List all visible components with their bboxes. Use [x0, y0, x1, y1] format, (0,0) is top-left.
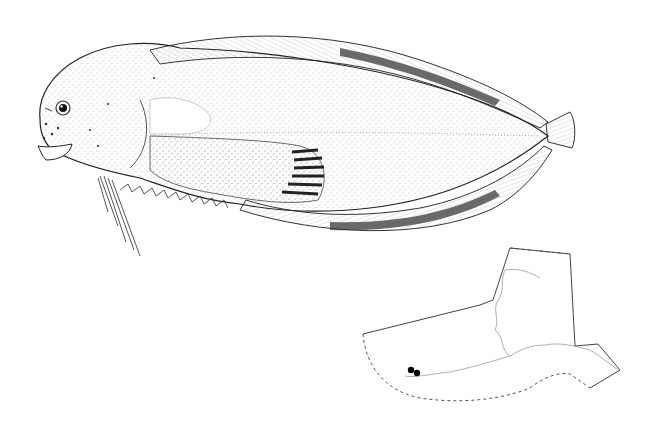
occurrence-marker [414, 370, 420, 376]
map-offshore-boundary [363, 248, 590, 401]
figure-canvas [0, 0, 656, 436]
caudal-fin [546, 112, 575, 148]
occurrence-marker [408, 367, 414, 373]
lower-fin-rays [98, 176, 140, 256]
map-boundary [363, 248, 620, 388]
figure-svg [0, 0, 656, 436]
eye [56, 101, 70, 115]
distribution-map [363, 248, 620, 401]
fish-illustration [38, 36, 575, 256]
coastline [405, 269, 618, 376]
